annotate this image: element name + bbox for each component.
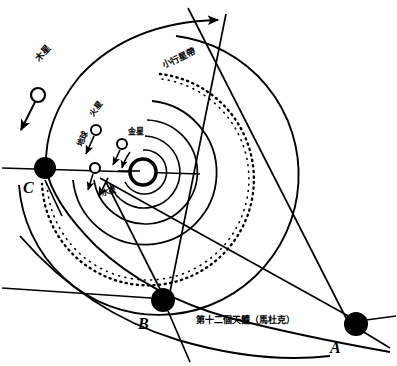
twelfth-body-label: 第十二個天體（馬杜克） bbox=[196, 316, 295, 325]
line-A-lower-tail bbox=[362, 331, 390, 348]
jupiter-direction-arrow bbox=[21, 102, 35, 130]
planet-marker-jupiter bbox=[31, 88, 45, 102]
planet-marker-mars bbox=[91, 125, 101, 135]
trajectory-secondary bbox=[20, 236, 330, 358]
orbit-paths bbox=[19, 36, 299, 315]
node-marker-B bbox=[151, 288, 175, 312]
line-B-to-center bbox=[106, 182, 160, 289]
planet-marker-venus bbox=[117, 139, 127, 149]
node-label-C: C bbox=[23, 180, 34, 196]
solar-system-diagram bbox=[0, 0, 397, 366]
node-label-A: A bbox=[330, 340, 341, 356]
node-marker-A bbox=[344, 312, 368, 336]
orbit-jupiter bbox=[19, 36, 299, 315]
planet-marker-earth bbox=[90, 163, 100, 173]
inner-direction-arrow bbox=[122, 152, 130, 168]
node-marker-C bbox=[34, 157, 56, 179]
mars-direction-arrow bbox=[86, 136, 94, 154]
node-label-B: B bbox=[138, 316, 149, 332]
line-A-right-tail bbox=[366, 316, 396, 320]
planet-direction-arrows bbox=[21, 102, 130, 196]
line-B-down-right bbox=[168, 311, 190, 362]
earth-direction-arrow bbox=[88, 174, 93, 190]
planet-label-venus: 金星 bbox=[128, 128, 144, 136]
diagram-canvas: 木星 小行星帶 火星 金星 地球 水星 第十二個天體（馬杜克） C B A bbox=[0, 0, 397, 366]
venus-direction-arrow bbox=[113, 150, 120, 165]
trajectory-outbound bbox=[46, 20, 218, 168]
